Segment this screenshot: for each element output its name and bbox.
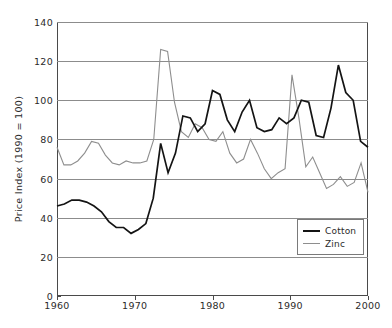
legend-label-zinc: Zinc bbox=[325, 239, 345, 249]
y-tick-label-40: 40 bbox=[40, 212, 53, 223]
y-axis-title: Price Index (1990 = 100) bbox=[10, 22, 28, 296]
x-tick-label-1970: 1970 bbox=[122, 300, 147, 311]
y-tick-label-20: 20 bbox=[40, 251, 53, 262]
x-tick-label-1990: 1990 bbox=[278, 300, 303, 311]
x-tick-label-2000: 2000 bbox=[355, 300, 380, 311]
series-line-zinc bbox=[57, 49, 368, 192]
legend-swatch-zinc bbox=[303, 243, 320, 244]
chart-figure: 020406080100120140 Price Index (1990 = 1… bbox=[0, 0, 392, 328]
x-axis-tick-labels: 19601970198019902000 bbox=[57, 300, 368, 316]
y-tick-label-140: 140 bbox=[34, 17, 53, 28]
y-tick-label-100: 100 bbox=[34, 95, 53, 106]
chart-legend: Cotton Zinc bbox=[297, 219, 364, 255]
legend-item-zinc: Zinc bbox=[303, 237, 356, 250]
legend-swatch-cotton bbox=[303, 230, 320, 232]
y-tick-label-60: 60 bbox=[40, 173, 53, 184]
y-tick-label-80: 80 bbox=[40, 134, 53, 145]
y-tick-label-120: 120 bbox=[34, 56, 53, 67]
series-line-cotton bbox=[57, 65, 368, 233]
x-tick-label-1960: 1960 bbox=[44, 300, 69, 311]
legend-label-cotton: Cotton bbox=[325, 226, 356, 236]
x-tick-label-1980: 1980 bbox=[200, 300, 225, 311]
legend-item-cotton: Cotton bbox=[303, 224, 356, 237]
